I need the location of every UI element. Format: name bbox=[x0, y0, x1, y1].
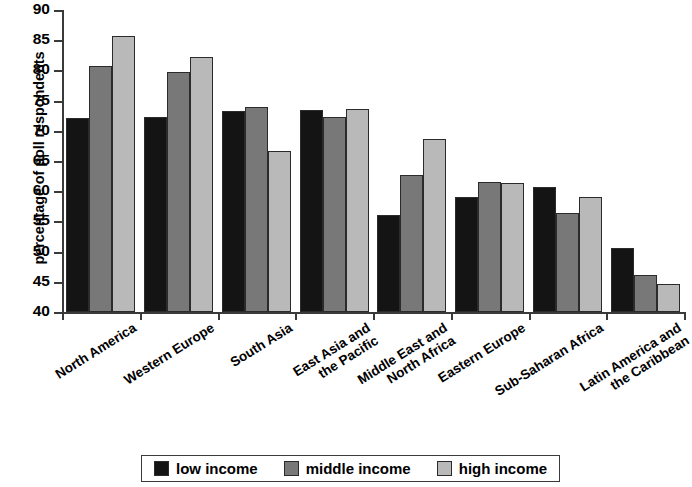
y-tick-label: 75 bbox=[33, 91, 50, 109]
x-tick bbox=[373, 312, 375, 320]
y-tick: 65 bbox=[54, 161, 62, 163]
bar bbox=[579, 197, 602, 312]
bar bbox=[423, 139, 446, 312]
bar bbox=[66, 118, 89, 312]
bar bbox=[533, 187, 556, 312]
y-tick: 80 bbox=[54, 70, 62, 72]
y-tick-label: 40 bbox=[33, 302, 50, 320]
x-tick bbox=[62, 312, 64, 320]
bar bbox=[346, 109, 369, 312]
bar bbox=[89, 66, 112, 312]
bar bbox=[455, 197, 478, 312]
y-axis-line bbox=[62, 10, 64, 313]
bar-group bbox=[300, 10, 369, 312]
bar bbox=[556, 213, 579, 312]
x-tick bbox=[218, 312, 220, 320]
legend-swatch-icon bbox=[284, 461, 299, 476]
y-tick: 85 bbox=[54, 40, 62, 42]
bar bbox=[611, 248, 634, 312]
y-tick-label: 65 bbox=[33, 151, 50, 169]
y-tick: 60 bbox=[54, 191, 62, 193]
y-tick: 50 bbox=[54, 252, 62, 254]
bar bbox=[190, 57, 213, 312]
y-tick: 90 bbox=[54, 10, 62, 12]
plot-area: 9085807570656055504540 bbox=[62, 10, 684, 312]
bar bbox=[222, 111, 245, 312]
bar bbox=[323, 117, 346, 312]
y-tick-label: 90 bbox=[33, 0, 50, 18]
bar bbox=[144, 117, 167, 312]
y-tick: 75 bbox=[54, 101, 62, 103]
y-tick-label: 70 bbox=[33, 121, 50, 139]
legend-label: low income bbox=[176, 460, 258, 477]
y-tick-label: 45 bbox=[33, 272, 50, 290]
bar-group bbox=[66, 10, 135, 312]
x-tick bbox=[140, 312, 142, 320]
bar-group bbox=[533, 10, 602, 312]
x-tick bbox=[295, 312, 297, 320]
y-tick-label: 55 bbox=[33, 211, 50, 229]
bar bbox=[167, 72, 190, 312]
x-tick bbox=[606, 312, 608, 320]
x-tick bbox=[529, 312, 531, 320]
legend-item[interactable]: middle income bbox=[284, 460, 411, 477]
y-tick: 45 bbox=[54, 282, 62, 284]
legend-label: middle income bbox=[306, 460, 411, 477]
y-tick-label: 60 bbox=[33, 181, 50, 199]
y-tick-label: 50 bbox=[33, 242, 50, 260]
bar-group bbox=[455, 10, 524, 312]
bar-group bbox=[144, 10, 213, 312]
legend-item[interactable]: high income bbox=[437, 460, 547, 477]
legend-swatch-icon bbox=[437, 461, 452, 476]
bar bbox=[377, 215, 400, 312]
legend-swatch-icon bbox=[154, 461, 169, 476]
bar-chart: percentage of poll respondents 908580757… bbox=[0, 0, 692, 487]
bar bbox=[245, 107, 268, 312]
bar bbox=[501, 183, 524, 312]
bar bbox=[268, 151, 291, 312]
y-tick: 40 bbox=[54, 312, 62, 314]
bar bbox=[657, 284, 680, 312]
bar bbox=[478, 182, 501, 312]
bar bbox=[112, 36, 135, 312]
x-tick bbox=[684, 312, 686, 320]
bar bbox=[400, 175, 423, 312]
x-tick bbox=[451, 312, 453, 320]
bar-group bbox=[222, 10, 291, 312]
y-tick: 70 bbox=[54, 131, 62, 133]
y-tick-label: 80 bbox=[33, 60, 50, 78]
bar bbox=[634, 275, 657, 312]
y-tick-label: 85 bbox=[33, 30, 50, 48]
bar bbox=[300, 110, 323, 312]
chart-legend: low incomemiddle incomehigh income bbox=[141, 455, 560, 482]
bar-group bbox=[377, 10, 446, 312]
bar-group bbox=[611, 10, 680, 312]
legend-item[interactable]: low income bbox=[154, 460, 258, 477]
legend-label: high income bbox=[459, 460, 547, 477]
y-tick: 55 bbox=[54, 221, 62, 223]
